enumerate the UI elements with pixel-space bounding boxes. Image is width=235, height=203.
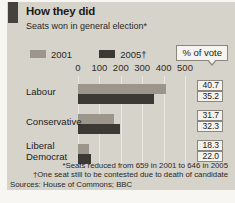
x-axis-tick-300: 300 (134, 62, 150, 73)
x-axis-tick-100: 100 (91, 62, 107, 73)
chart-subtitle: Seats won in general election* (26, 21, 147, 31)
bar-2001-liberal-democrat (78, 144, 89, 154)
x-axis-tick-400: 400 (156, 62, 172, 73)
vote-share-callout-label: % of vote (182, 47, 222, 58)
bar-2005-labour (78, 94, 154, 104)
bar-2001-labour (78, 84, 166, 94)
brand-tab (8, 2, 18, 23)
legend-label-2005: 2005† (120, 49, 146, 60)
legend-swatch-2001 (30, 50, 46, 58)
x-axis-tick-0: 0 (75, 62, 80, 73)
chart-panel: How they did Seats won in general electi… (7, 2, 235, 190)
sources: Sources: House of Commons; BBC (10, 180, 132, 189)
bar-2005-conservative (78, 124, 120, 134)
vote-share-2001-conservative: 31.7 (197, 110, 223, 121)
callout-tail-icon (207, 58, 217, 64)
gridline-500 (185, 76, 186, 168)
page: How they did Seats won in general electi… (0, 0, 235, 203)
category-label-liberal-democrat: Liberal Democrat (26, 141, 78, 162)
legend-swatch-2005 (99, 50, 115, 58)
footnote-seats-reduced: *Seats reduced from 659 in 2001 to 646 i… (62, 161, 228, 170)
vote-share-callout: % of vote (176, 45, 228, 61)
legend-label-2001: 2001 (51, 49, 72, 60)
chart-title: How they did (26, 5, 95, 17)
vote-share-2005-labour: 35.2 (197, 91, 223, 102)
vote-share-2001-liberal-democrat: 18.3 (197, 140, 223, 151)
category-label-conservative: Conservative (26, 117, 78, 128)
category-label-labour: Labour (26, 87, 78, 98)
footnote-contested: †One seat still to be contested due to d… (33, 170, 228, 179)
x-axis-tick-500: 500 (177, 62, 193, 73)
x-axis-tick-200: 200 (113, 62, 129, 73)
plot-area (78, 76, 192, 168)
vote-share-2005-conservative: 32.3 (197, 121, 223, 132)
legend: 2001 2005† (30, 49, 147, 59)
vote-share-2001-labour: 40.7 (197, 80, 223, 91)
bar-2001-conservative (78, 114, 114, 124)
